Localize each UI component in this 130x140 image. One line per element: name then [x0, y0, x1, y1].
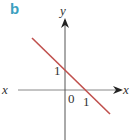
chart-canvas: y x x 1 0 1 [0, 0, 130, 140]
x-axis-right-label: x [122, 82, 129, 97]
y-axis-label: y [58, 3, 66, 18]
y-tick-1: 1 [54, 63, 61, 78]
x-axis-left-label: x [1, 82, 8, 97]
x-tick-1: 1 [83, 94, 90, 109]
origin-label: 0 [68, 91, 75, 106]
